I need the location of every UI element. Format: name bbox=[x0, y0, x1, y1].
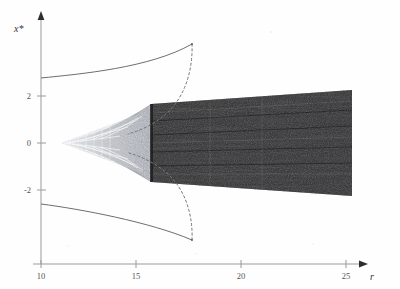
dense-leading-edge bbox=[150, 104, 153, 182]
x-axis-arrow bbox=[359, 261, 368, 268]
upper-stable-branch bbox=[41, 44, 192, 78]
y-tick-label-minus2: -2 bbox=[24, 185, 31, 195]
y-tick-label-0: 0 bbox=[27, 138, 31, 148]
y-axis-arrow bbox=[38, 11, 45, 20]
dense-speckle bbox=[148, 86, 358, 201]
y-tick-label-2: 2 bbox=[27, 91, 31, 101]
y-axis-title: x* bbox=[13, 23, 23, 34]
x-axis-title: r bbox=[370, 271, 374, 282]
figure-canvas: 10 15 20 25 2 0 -2 x* r bbox=[0, 0, 400, 289]
lower-stable-branch bbox=[41, 204, 192, 240]
x-tick-label-25: 25 bbox=[342, 271, 351, 281]
bifurcation-plot: 10 15 20 25 2 0 -2 x* r bbox=[0, 0, 400, 289]
turning-point-upper bbox=[191, 43, 193, 45]
chaotic-band-dense bbox=[148, 86, 358, 201]
x-tick-label-15: 15 bbox=[132, 271, 141, 281]
x-tick-label-10: 10 bbox=[37, 271, 46, 281]
chaotic-cone-light bbox=[55, 98, 155, 188]
x-tick-label-20: 20 bbox=[237, 271, 246, 281]
turning-point-lower bbox=[191, 239, 193, 241]
